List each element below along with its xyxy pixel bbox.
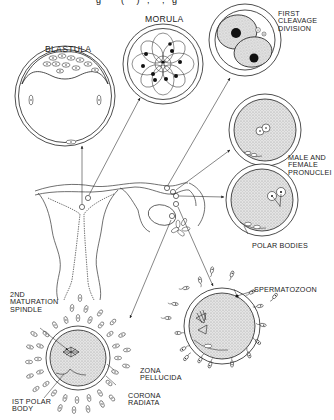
label-spermatozoon: SPERMATOZOON (254, 286, 317, 293)
first-cleavage-diagram (209, 4, 281, 76)
fertilization-diagram (184, 288, 260, 364)
label-zona-pellucida: ZONA PELLUCIDA (140, 367, 182, 382)
diagram-canvas: g ( ) , , g (0, 0, 334, 420)
diagram-svg (0, 0, 334, 420)
label-blastula: BLASTULA (45, 45, 91, 54)
label-first-cleavage: FIRST CLEAVAGE DIVISION (278, 10, 317, 32)
label-2nd-maturation-spindle: 2ND MATURATION SPINDLE (10, 291, 58, 313)
oocyte-diagram (40, 326, 116, 398)
label-1st-polar-body: IST POLAR BODY (12, 398, 51, 413)
label-corona-radiata: CORONA RADIATA (128, 392, 161, 407)
label-morula: MORULA (145, 15, 184, 24)
morula-diagram (123, 24, 203, 104)
label-polar-bodies: POLAR BODIES (252, 242, 308, 249)
blastula-diagram (15, 46, 115, 146)
label-pronuclei: MALE AND FEMALE PRONUCLEI (288, 154, 332, 176)
uterus-tube-ovary (35, 183, 205, 300)
